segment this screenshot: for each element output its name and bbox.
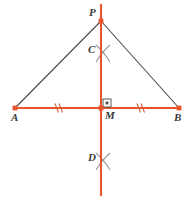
vertex-marker-m <box>99 106 104 111</box>
point-label-c: C <box>88 44 95 55</box>
vertex-marker-p <box>99 19 104 24</box>
point-label-a: A <box>11 112 18 123</box>
point-label-b: B <box>174 112 181 123</box>
triangle-leg-pa <box>15 21 101 108</box>
right-angle-mark <box>103 99 111 107</box>
point-label-m: M <box>105 110 115 121</box>
arc-intersection-d <box>96 153 110 170</box>
point-label-d: D <box>88 152 96 163</box>
vertex-marker-a <box>13 106 18 111</box>
geometry-diagram: P C A M B D <box>0 0 194 201</box>
point-label-p: P <box>89 7 96 18</box>
triangle-leg-pb <box>101 21 179 108</box>
arc-intersection-c <box>96 45 110 62</box>
vertex-marker-b <box>177 106 182 111</box>
diagram-canvas <box>0 0 194 201</box>
